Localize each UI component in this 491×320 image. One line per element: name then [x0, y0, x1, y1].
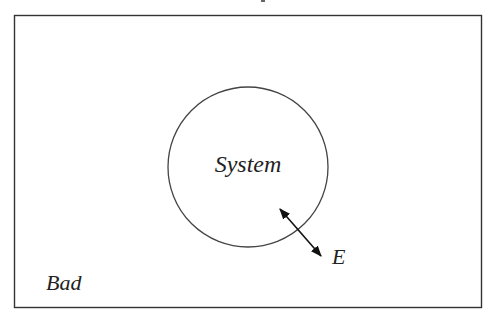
bath-label: Bad [46, 270, 82, 295]
energy-exchange-arrow [280, 209, 321, 256]
system-surroundings-diagram: System E Bad [0, 0, 491, 320]
system-label: System [215, 151, 282, 177]
cropped-title-fragment [261, 0, 265, 2]
energy-label: E [331, 244, 346, 269]
